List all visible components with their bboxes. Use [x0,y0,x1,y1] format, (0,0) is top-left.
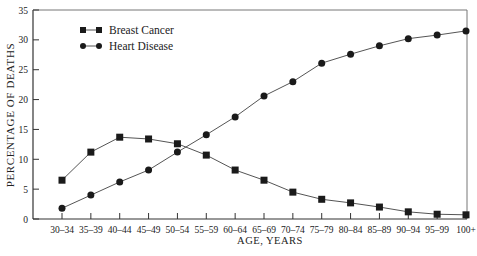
x-tick-label: 60–64 [223,225,247,235]
y-tick-label: 35 [19,6,29,16]
circle-marker [376,42,383,49]
x-tick-label: 35–39 [79,225,103,235]
x-tick-label: 95–99 [425,225,449,235]
square-marker [203,152,210,159]
circle-marker [463,27,470,34]
y-axis-label: PERCENTAGE OF DEATHS [4,43,16,187]
x-axis-label: AGE, YEARS [237,235,303,246]
square-marker [59,177,66,184]
square-marker [318,196,325,203]
square-marker [289,189,296,196]
x-tick-label: 40–44 [108,225,132,235]
line-chart: 05101520253035 30–3435–3940–4445–4950–54… [0,0,477,256]
circle-marker [405,35,412,42]
x-tick-label: 65–69 [252,225,276,235]
legend-item: Heart Disease [80,40,173,52]
legend-item: Breast Cancer [80,24,174,36]
circle-marker [434,32,441,39]
square-marker [116,134,123,141]
legend-label: Heart Disease [109,40,173,52]
square-marker [434,211,441,218]
square-marker [463,211,470,218]
heart-disease-series [59,27,470,211]
breast-cancer-series [59,134,470,219]
x-axis-ticks: 30–3435–3940–4445–4950–5455–5960–6465–69… [50,213,476,235]
data-series [59,27,470,218]
square-marker [87,149,94,156]
plot-frame [33,10,467,219]
square-marker [232,167,239,174]
legend: Breast CancerHeart Disease [80,24,174,52]
square-marker [405,208,412,215]
x-tick-label: 100+ [456,225,476,235]
x-tick-label: 45–49 [137,225,161,235]
circle-marker [87,192,94,199]
legend-label: Breast Cancer [109,24,174,36]
circle-marker [347,51,354,58]
y-tick-label: 20 [19,95,29,105]
circle-marker [116,178,123,185]
square-marker [174,140,181,147]
y-tick-label: 30 [19,35,29,45]
square-marker-icon [96,27,102,33]
x-tick-label: 55–59 [194,225,218,235]
circle-marker [318,60,325,67]
y-tick-label: 5 [23,185,28,195]
x-tick-label: 70–74 [281,225,305,235]
circle-marker-icon [96,43,102,49]
circle-marker-icon [80,43,86,49]
circle-marker [59,205,66,212]
square-marker [145,135,152,142]
circle-marker [174,149,181,156]
y-tick-label: 25 [19,65,29,75]
circle-marker [261,92,268,99]
x-tick-label: 75–79 [310,225,334,235]
x-tick-label: 30–34 [50,225,74,235]
x-tick-label: 90–94 [396,225,420,235]
y-axis-ticks: 05101520253035 [19,6,40,225]
x-tick-label: 50–54 [166,225,190,235]
circle-marker [289,78,296,85]
square-marker [376,204,383,211]
square-marker [347,199,354,206]
y-tick-label: 10 [19,155,29,165]
y-tick-label: 0 [23,215,28,225]
circle-marker [145,167,152,174]
y-tick-label: 15 [19,125,29,135]
x-tick-label: 80–84 [339,225,363,235]
square-marker-icon [80,27,86,33]
circle-marker [232,113,239,120]
square-marker [261,177,268,184]
x-tick-label: 85–89 [368,225,392,235]
circle-marker [203,131,210,138]
